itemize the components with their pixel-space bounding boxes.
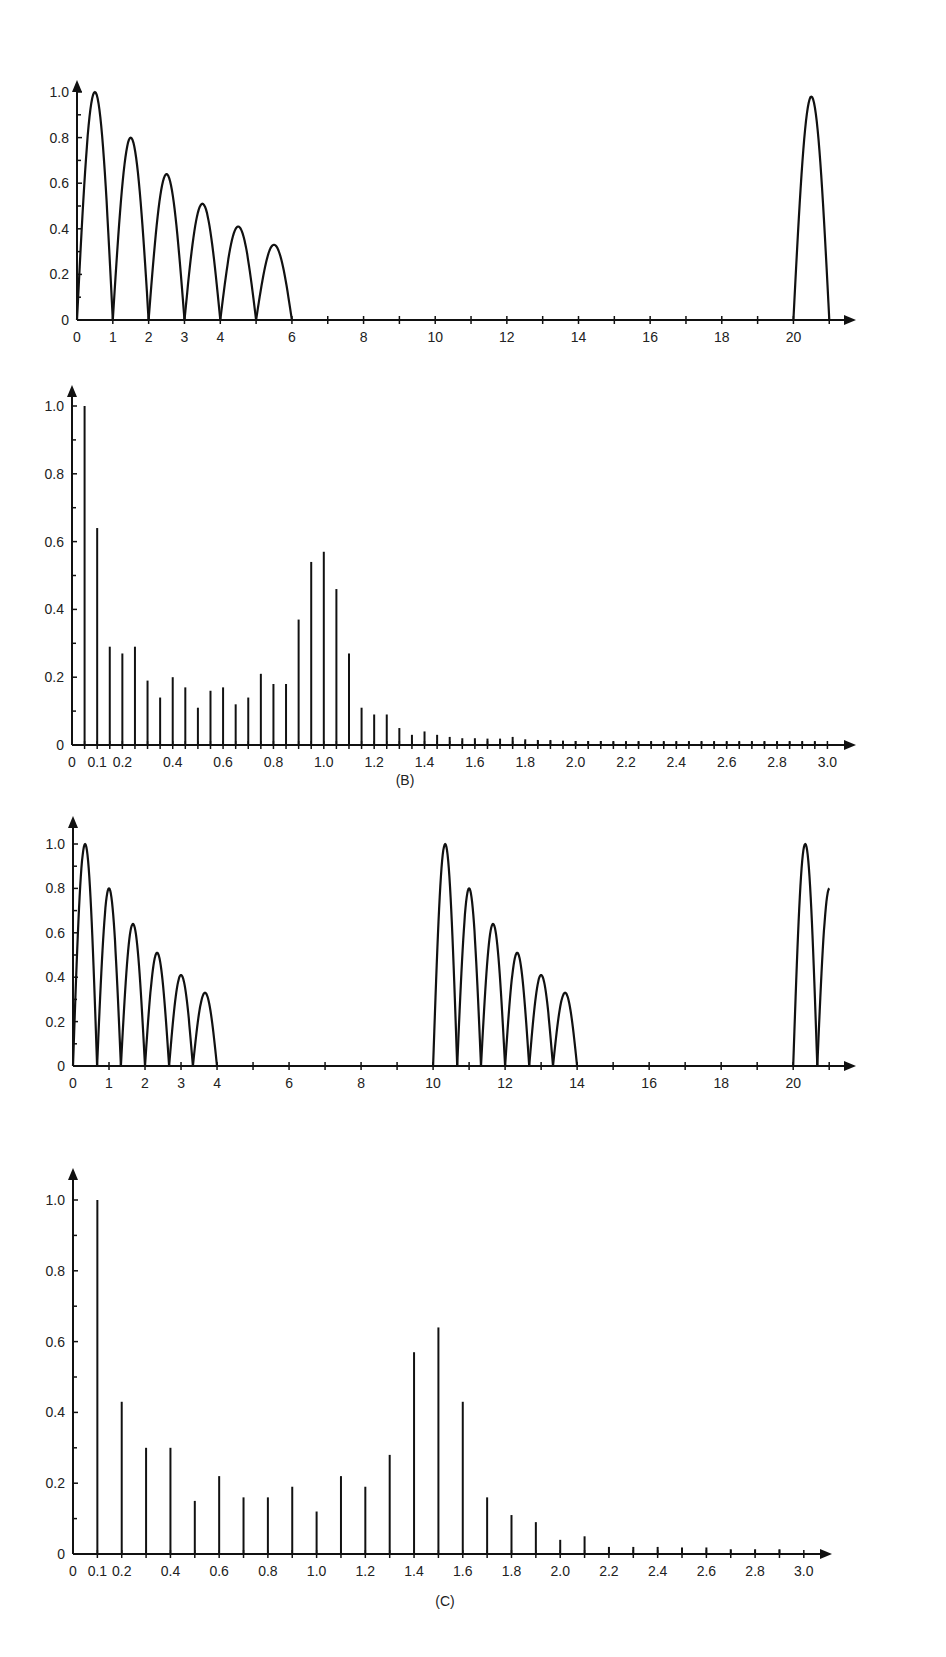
waveform-lobe xyxy=(97,888,121,1066)
y-tick-label: 0.8 xyxy=(45,466,65,482)
waveform-lobe xyxy=(77,92,113,320)
x-tick-label: 2.6 xyxy=(697,1563,717,1579)
x-tick-label: 0.6 xyxy=(213,754,233,770)
x-tick-label: 1.2 xyxy=(356,1563,376,1579)
chart-c-time: 00.20.40.60.81.00123468101214161820 xyxy=(46,816,856,1091)
x-tick-label: 1.0 xyxy=(314,754,334,770)
x-tick-label: 1 xyxy=(109,329,117,345)
y-tick-label: 0 xyxy=(61,312,69,328)
waveform-lobe xyxy=(529,975,553,1066)
y-tick-label: 1.0 xyxy=(46,1192,66,1208)
y-tick-label: 0.2 xyxy=(50,266,70,282)
chart-b-spectrum: 00.20.40.60.81.000.10.20.40.60.81.01.21.… xyxy=(45,385,856,788)
y-tick-label: 0.2 xyxy=(46,1014,66,1030)
y-tick-label: 0.8 xyxy=(50,130,70,146)
y-tick-label: 1.0 xyxy=(50,84,70,100)
x-tick-label: 18 xyxy=(713,1075,729,1091)
x-tick-label: 0.4 xyxy=(163,754,183,770)
waveform-lobe xyxy=(457,888,481,1066)
x-tick-label: 2.2 xyxy=(616,754,636,770)
y-tick-label: 0.4 xyxy=(50,221,70,237)
y-tick-label: 0.6 xyxy=(46,1334,66,1350)
waveform-lobe xyxy=(256,245,292,320)
chart-c-spectrum: 00.20.40.60.81.000.10.20.40.60.81.01.21.… xyxy=(46,1168,832,1609)
y-tick-label: 1.0 xyxy=(46,836,66,852)
x-tick-label: 1.8 xyxy=(516,754,536,770)
x-tick-label: 2 xyxy=(145,329,153,345)
figure-caption: (B) xyxy=(396,772,415,788)
y-tick-label: 0.8 xyxy=(46,1263,66,1279)
y-axis-arrow-icon xyxy=(72,80,82,92)
y-tick-label: 0.2 xyxy=(46,1475,66,1491)
waveform-lobe xyxy=(793,844,817,1066)
y-tick-label: 0.2 xyxy=(45,669,65,685)
y-tick-label: 0 xyxy=(57,1058,65,1074)
x-tick-label: 12 xyxy=(499,329,515,345)
figure-canvas: 00.20.40.60.81.00123468101214161820 00.2… xyxy=(0,0,946,1657)
waveform-lobe xyxy=(793,97,829,320)
x-tick-label: 3 xyxy=(181,329,189,345)
waveform-lobe xyxy=(185,204,221,320)
waveform-lobe xyxy=(113,138,149,320)
waveform-lobe xyxy=(505,953,529,1066)
x-axis-arrow-icon xyxy=(844,315,856,325)
x-tick-label: 2.2 xyxy=(599,1563,619,1579)
x-axis-arrow-icon xyxy=(844,740,856,750)
x-tick-label: 1.4 xyxy=(404,1563,424,1579)
y-tick-label: 1.0 xyxy=(45,398,65,414)
waveform-lobe xyxy=(553,993,577,1066)
x-tick-label: 1.2 xyxy=(364,754,384,770)
x-tick-label: 2 xyxy=(141,1075,149,1091)
y-tick-label: 0.8 xyxy=(46,880,66,896)
x-tick-label: 2.0 xyxy=(550,1563,570,1579)
y-axis-arrow-icon xyxy=(67,385,77,397)
x-axis-arrow-icon xyxy=(820,1549,832,1559)
x-tick-label: 0.1 xyxy=(87,754,107,770)
x-tick-label: 1.0 xyxy=(307,1563,327,1579)
waveform-lobe xyxy=(220,227,256,321)
x-tick-label: 2.4 xyxy=(667,754,687,770)
y-tick-label: 0.6 xyxy=(45,534,65,550)
x-tick-label: 2.8 xyxy=(745,1563,765,1579)
x-tick-label: 2.0 xyxy=(566,754,586,770)
y-axis-arrow-icon xyxy=(68,816,78,828)
waveform-lobe xyxy=(121,924,145,1066)
waveform-lobe xyxy=(169,975,193,1066)
x-tick-label: 3.0 xyxy=(818,754,838,770)
x-tick-label: 0.6 xyxy=(209,1563,229,1579)
x-tick-label: 6 xyxy=(288,329,296,345)
waveform-lobe xyxy=(145,953,169,1066)
y-tick-label: 0.6 xyxy=(50,175,70,191)
x-tick-label: 20 xyxy=(785,1075,801,1091)
y-tick-label: 0 xyxy=(56,737,64,753)
x-tick-label: 2.8 xyxy=(767,754,787,770)
x-tick-label: 4 xyxy=(213,1075,221,1091)
y-tick-label: 0.4 xyxy=(45,601,65,617)
y-axis-arrow-icon xyxy=(68,1168,78,1180)
x-tick-label: 20 xyxy=(786,329,802,345)
x-tick-label: 0 xyxy=(68,754,76,770)
x-tick-label: 3 xyxy=(177,1075,185,1091)
x-tick-label: 0 xyxy=(69,1563,77,1579)
waveform-lobe xyxy=(433,844,457,1066)
waveform-lobe xyxy=(149,174,185,320)
x-tick-label: 0.4 xyxy=(161,1563,181,1579)
x-tick-label: 4 xyxy=(216,329,224,345)
x-tick-label: 0.2 xyxy=(112,1563,132,1579)
x-tick-label: 1 xyxy=(105,1075,113,1091)
x-tick-label: 8 xyxy=(360,329,368,345)
y-tick-label: 0 xyxy=(57,1546,65,1562)
x-tick-label: 1.6 xyxy=(453,1563,473,1579)
x-tick-label: 0.8 xyxy=(264,754,284,770)
x-tick-label: 2.6 xyxy=(717,754,737,770)
x-tick-label: 0 xyxy=(69,1075,77,1091)
x-tick-label: 1.6 xyxy=(465,754,485,770)
x-tick-label: 2.4 xyxy=(648,1563,668,1579)
x-tick-label: 0.8 xyxy=(258,1563,278,1579)
figure-caption: (C) xyxy=(435,1593,454,1609)
x-tick-label: 6 xyxy=(285,1075,293,1091)
y-tick-label: 0.6 xyxy=(46,925,66,941)
x-tick-label: 3.0 xyxy=(794,1563,814,1579)
waveform-lobe xyxy=(817,888,829,1066)
x-tick-label: 14 xyxy=(569,1075,585,1091)
